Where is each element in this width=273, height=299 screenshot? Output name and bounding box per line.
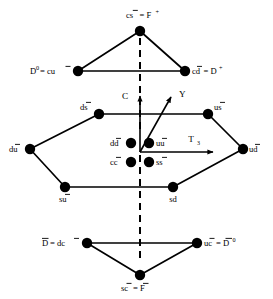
node-dot-cc-bar[interactable] (126, 157, 136, 167)
label-text-du-bar: du (9, 144, 18, 154)
label-lhs-sup-cu-bar: 0 (36, 64, 39, 71)
label-text-cd-bar: cd (192, 66, 201, 76)
edge-uc-to-sc (140, 243, 197, 275)
label-rhs-dc-bar: = dc (50, 238, 65, 248)
label-rhs-cs-bar: = F (140, 10, 152, 20)
node-label-sc-bar: sc = F (121, 283, 149, 293)
node-dot-uu-bar[interactable] (144, 138, 154, 148)
label-text-sc-bar: sc (121, 283, 128, 293)
node-label-us-bar: us (214, 102, 225, 112)
edge-ud-to-sd (173, 149, 243, 187)
node-uc-bar[interactable]: uc = D 0 (192, 236, 236, 248)
node-dot-uc-bar[interactable] (192, 238, 202, 248)
label-rhs-cu-bar: = cu (40, 66, 56, 76)
label-text-ds-bar: ds (80, 102, 88, 112)
charm-axis-label: C (122, 91, 128, 101)
label-text-sd: sd (169, 194, 177, 204)
node-dot-us-bar[interactable] (203, 109, 213, 119)
node-dot-sd[interactable] (168, 182, 178, 192)
node-dot-dd-bar[interactable] (126, 138, 136, 148)
node-cc-bar[interactable]: cc (110, 157, 136, 167)
label-sup-cd-bar: + (219, 64, 223, 71)
node-label-cc-bar: cc (110, 157, 121, 167)
node-dot-sc-bar[interactable] (135, 270, 145, 280)
label-text-dd-bar: dd (110, 138, 119, 148)
node-label-cu-bar: D 0 = cu (30, 64, 71, 76)
label-text-uc-bar: uc (204, 238, 212, 248)
edge-du-to-su (30, 149, 65, 187)
node-dot-cu-bar[interactable] (73, 66, 83, 76)
isospin-axis-subscript: 3 (197, 140, 200, 146)
node-ud-bar[interactable]: ud (238, 144, 260, 154)
edge-cs-to-cd (140, 31, 185, 71)
label-text-su-bar: su (59, 194, 67, 204)
node-dc-bar[interactable]: D = dc (42, 238, 92, 248)
label-sup-cs-bar: + (156, 8, 160, 15)
node-dot-cs-bar[interactable] (135, 26, 145, 36)
node-label-su-bar: su (59, 194, 70, 204)
node-dot-dc-bar[interactable] (82, 238, 92, 248)
node-label-cs-bar: cs = F + (126, 8, 160, 20)
node-label-du-bar: du (9, 144, 20, 154)
label-rhs-cd-bar: = D (204, 66, 217, 76)
node-dot-du-bar[interactable] (25, 144, 35, 154)
node-ss-bar[interactable]: ss (144, 157, 167, 167)
node-label-cd-bar: cd = D + (192, 64, 223, 76)
node-label-dc-bar: D = dc (42, 238, 79, 248)
label-text-cs-bar: cs (126, 10, 134, 20)
edge-cs-to-cu (78, 31, 140, 71)
weight-diagram-figure: C Y T 3 cs = F + D 0 = cu cd = D + (0, 0, 273, 299)
label-lhs-dc-bar: D (42, 238, 48, 248)
hypercharge-axis-label: Y (179, 89, 186, 99)
node-dot-su-bar[interactable] (60, 182, 70, 192)
node-label-ss-bar: ss (156, 157, 167, 167)
node-sd[interactable]: sd (168, 182, 178, 204)
node-sc-bar[interactable]: sc = F (121, 270, 149, 293)
label-rhs-sc-bar: = F (133, 283, 145, 293)
label-sup-uc-bar: 0 (233, 236, 236, 243)
node-dot-ds-bar[interactable] (94, 109, 104, 119)
node-cs-bar[interactable]: cs = F + (126, 8, 160, 36)
label-text-ss-bar: ss (156, 157, 163, 167)
edge-us-to-ud (208, 114, 243, 149)
node-label-ds-bar: ds (80, 102, 91, 112)
isospin-axis-label: T (188, 134, 194, 144)
label-text-uu-bar: uu (156, 138, 165, 148)
node-cd-bar[interactable]: cd = D + (180, 64, 223, 76)
label-text-ud-bar: ud (249, 144, 258, 154)
edge-dc-to-sc (87, 243, 140, 275)
edge-ds-to-du (30, 114, 99, 149)
node-label-uu-bar: uu (156, 138, 167, 148)
node-label-ud-bar: ud (249, 144, 260, 154)
label-text-us-bar: us (214, 102, 222, 112)
node-dot-ss-bar[interactable] (144, 157, 154, 167)
isospin-axis-label-group: T 3 (188, 134, 200, 146)
su4-weight-diagram-canvas: C Y T 3 cs = F + D 0 = cu cd = D + (0, 0, 273, 299)
node-dot-ud-bar[interactable] (238, 144, 248, 154)
node-us-bar[interactable]: us (203, 102, 225, 119)
node-label-uc-bar: uc = D 0 (204, 236, 236, 248)
label-rhs-uc-bar: = D (216, 238, 229, 248)
node-uu-bar[interactable]: uu (144, 138, 167, 148)
node-dot-cd-bar[interactable] (180, 66, 190, 76)
label-text-cc-bar: cc (110, 157, 118, 167)
node-dd-bar[interactable]: dd (110, 138, 136, 148)
node-su-bar[interactable]: su (59, 182, 70, 204)
node-cu-bar[interactable]: D 0 = cu (30, 64, 83, 76)
node-label-dd-bar: dd (110, 138, 121, 148)
node-du-bar[interactable]: du (9, 144, 35, 154)
